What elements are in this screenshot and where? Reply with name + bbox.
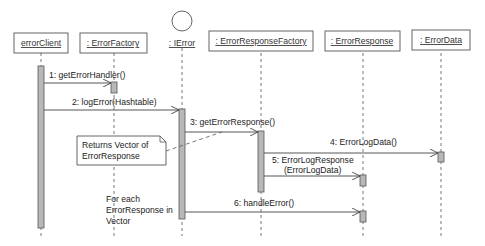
activation-errorresponsefactory — [258, 131, 264, 192]
note-text-line1: Returns Vector of — [82, 140, 149, 150]
participant-label-errorclient: errorClient — [21, 38, 62, 48]
sequence-diagram: errorClient : ErrorFactory : IError : Er… — [0, 0, 485, 246]
participant-label-errorresponse: : ErrorResponse — [331, 36, 394, 46]
interface-circle-icon — [172, 11, 192, 31]
message-label-4: 4: ErrorLogData() — [330, 137, 397, 147]
activation-errorresponse-1 — [360, 175, 366, 186]
activation-errorclient — [38, 66, 44, 228]
loop-text-line1: For each — [106, 194, 140, 204]
loop-text-line2: ErrorResponse in — [106, 205, 173, 215]
note-text-line2: ErrorResponse — [82, 151, 140, 161]
participant-label-ierror: : IError — [169, 38, 195, 48]
loop-text-line3: Vector — [106, 216, 131, 226]
message-label-1: 1: getErrorHandler() — [49, 70, 126, 80]
note-anchor-line — [166, 132, 222, 151]
activation-ierror — [179, 109, 185, 219]
activation-errorfactory — [111, 82, 117, 93]
message-label-5-line2: (ErrorLogData) — [284, 165, 341, 175]
activation-errordata — [438, 152, 444, 162]
message-label-2: 2: logError(Hashtable) — [72, 97, 157, 107]
message-label-6: 6: handleError() — [234, 198, 294, 208]
activation-errorresponse-2 — [360, 211, 366, 222]
message-label-3: 3: getErrorResponse() — [190, 117, 275, 127]
participant-label-errordata: : ErrorData — [420, 35, 462, 45]
message-label-5-line1: 5: ErrorLogResponse — [272, 155, 354, 165]
participant-label-errorresponsefactory: : ErrorResponseFactory — [215, 36, 307, 46]
participant-label-errorfactory: : ErrorFactory — [87, 38, 140, 48]
